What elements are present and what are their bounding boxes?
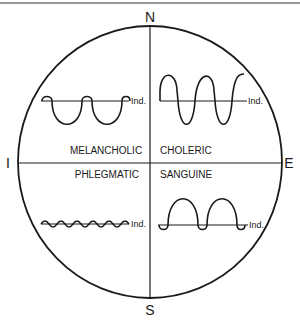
phlegmatic-label: PHLEGMATIC	[75, 169, 139, 180]
compass-west: I	[6, 155, 10, 171]
phlegmatic-ind-label: Ind.	[131, 219, 146, 229]
melancholic-label: MELANCHOLIC	[70, 145, 142, 156]
sanguine-label: SANGUINE	[160, 169, 213, 180]
phlegmatic-wave: Ind.	[41, 219, 146, 229]
melancholic-ind-label: Ind.	[131, 96, 146, 106]
sanguine-wave: Ind.	[158, 199, 264, 230]
compass-north: N	[145, 9, 155, 25]
choleric-wave: Ind.	[160, 74, 263, 124]
temperament-diagram: N S I E Ind. MELANCHOLIC Ind. CHOLERIC I…	[0, 0, 300, 321]
choleric-ind-label: Ind.	[248, 96, 263, 106]
melancholic-wave: Ind.	[41, 96, 146, 124]
sanguine-ind-label: Ind.	[249, 220, 264, 230]
choleric-label: CHOLERIC	[160, 145, 212, 156]
compass-south: S	[145, 302, 154, 318]
compass-east: E	[284, 155, 293, 171]
